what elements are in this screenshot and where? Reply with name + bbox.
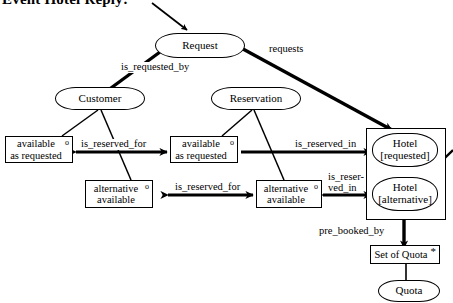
alternative-left-line2: available [94, 194, 138, 205]
edge-label-is-reserved-in-line2: ved_in [328, 183, 364, 194]
node-available-as-requested-left[interactable]: available as requested o [5, 136, 73, 163]
alternative-left-line1: alternative [94, 183, 138, 194]
multiplicity-marker-icon: * [431, 246, 437, 257]
optional-marker-icon: o [65, 139, 69, 147]
available-right-line1: available [175, 138, 227, 149]
edge-incoming-request [152, 3, 187, 30]
edge-label-requests: requests [268, 44, 304, 55]
available-left-line2: as requested [10, 150, 62, 161]
edge-reservation-available [222, 110, 252, 136]
edge-label-is-requested-by: is_requested_by [120, 62, 190, 73]
node-quota[interactable]: Quota [378, 280, 440, 302]
node-request-label: Request [182, 40, 217, 52]
node-set-of-quota[interactable]: Set of Quota * [370, 245, 440, 264]
edge-label-pre-booked-by: pre_booked_by [318, 226, 385, 237]
node-reservation[interactable]: Reservation [211, 87, 301, 110]
optional-marker-icon: o [230, 139, 234, 147]
edge-label-is-reserved-for-top: is_reserved_for [80, 139, 147, 150]
edge-label-is-reserved-for-bottom: is_reserved_for [174, 182, 241, 193]
node-hotel-alternative[interactable]: Hotel [alternative] [372, 177, 438, 211]
node-request[interactable]: Request [155, 33, 245, 58]
available-right-line2: as requested [175, 150, 227, 161]
node-hotel-requested[interactable]: Hotel [requested] [372, 133, 438, 167]
alternative-right-line1: alternative [264, 183, 308, 194]
available-left-line1: available [10, 138, 62, 149]
alternative-right-line2: available [264, 194, 308, 205]
optional-marker-icon: o [145, 183, 149, 191]
edge-reservation-alternative [254, 110, 284, 180]
edge-label-is-reserved-in-wrapped: is_reser- ved_in [327, 172, 365, 193]
edge-label-is-reserved-in: is_reserved_in [294, 139, 357, 150]
node-customer-label: Customer [79, 93, 122, 105]
node-alternative-available-right[interactable]: alternative available o [256, 180, 322, 208]
node-quota-label: Quota [396, 285, 423, 297]
node-available-as-requested-right[interactable]: available as requested o [170, 136, 238, 163]
hotel-requested-line2: [requested] [380, 150, 429, 162]
node-reservation-label: Reservation [230, 93, 283, 105]
set-of-quota-label: Set of Quota [374, 249, 427, 260]
node-alternative-available-left[interactable]: alternative available o [85, 180, 153, 208]
diagram-canvas: Event Hotel Reply: [0, 0, 453, 303]
edge-customer-available [62, 110, 98, 136]
optional-marker-icon: o [314, 183, 318, 191]
hotel-alternative-line2: [alternative] [378, 194, 432, 206]
node-customer[interactable]: Customer [55, 87, 145, 110]
